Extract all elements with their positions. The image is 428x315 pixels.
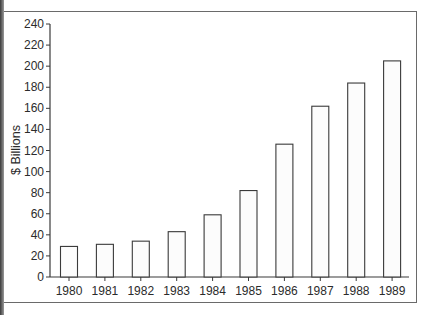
bar-1981 — [96, 244, 113, 277]
x-tick-label: 1989 — [379, 284, 406, 298]
x-tick-label: 1987 — [307, 284, 334, 298]
bar-1986 — [276, 144, 293, 277]
x-tick-label: 1980 — [56, 284, 83, 298]
x-tick-label: 1981 — [92, 284, 119, 298]
x-tick-label: 1986 — [271, 284, 298, 298]
y-tick-label: 240 — [24, 17, 44, 31]
y-tick-label: 100 — [24, 165, 44, 179]
bar-1989 — [384, 61, 401, 277]
bar-1980 — [61, 246, 78, 277]
y-axis: 020406080100120140160180200220240 — [24, 17, 50, 284]
y-tick-label: 220 — [24, 38, 44, 52]
y-tick-label: 120 — [24, 144, 44, 158]
x-tick-label: 1983 — [163, 284, 190, 298]
y-tick-label: 0 — [37, 270, 44, 284]
bar-1983 — [168, 232, 185, 277]
bar-1982 — [132, 241, 149, 277]
y-tick-label: 200 — [24, 59, 44, 73]
y-tick-label: 60 — [31, 207, 45, 221]
x-tick-label: 1988 — [343, 284, 370, 298]
x-tick-label: 1984 — [199, 284, 226, 298]
bar-1985 — [240, 191, 257, 277]
x-tick-label: 1982 — [127, 284, 154, 298]
y-tick-label: 20 — [31, 249, 45, 263]
bar-1984 — [204, 215, 221, 277]
bars — [61, 61, 401, 277]
bar-1988 — [348, 83, 365, 277]
bar-1987 — [312, 106, 329, 277]
y-tick-label: 140 — [24, 122, 44, 136]
y-axis-title: $ Billions — [9, 125, 23, 175]
bar-chart: 020406080100120140160180200220240 198019… — [0, 0, 428, 315]
x-axis: 1980198119821983198419851986198719881989 — [50, 277, 409, 298]
y-tick-label: 40 — [31, 228, 45, 242]
y-tick-label: 180 — [24, 80, 44, 94]
x-tick-label: 1985 — [235, 284, 262, 298]
y-tick-label: 160 — [24, 101, 44, 115]
y-tick-label: 80 — [31, 186, 45, 200]
